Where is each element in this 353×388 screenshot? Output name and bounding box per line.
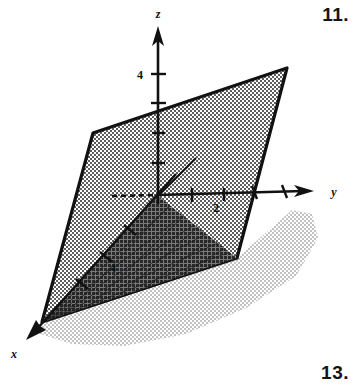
- problem-number-11: 11.: [322, 4, 349, 26]
- figure-container: 4 z 2 y 4 x: [0, 0, 353, 388]
- problem-number-13: 13.: [321, 362, 349, 384]
- z-axis-label: z: [155, 7, 161, 21]
- z-tick-label-4: 4: [137, 68, 143, 82]
- y-axis-label: y: [329, 185, 337, 199]
- coordinate-plane-figure: 4 z 2 y 4 x: [0, 0, 353, 388]
- x-tick-label-4: 4: [110, 261, 116, 275]
- y-tick-label-2: 2: [213, 201, 219, 215]
- x-axis-label: x: [10, 347, 17, 361]
